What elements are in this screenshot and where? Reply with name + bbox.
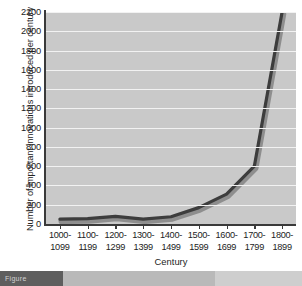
- x-axis-tick-mark: [227, 224, 228, 229]
- x-axis-title: Century: [46, 256, 296, 267]
- line-series: [46, 12, 296, 224]
- gridline: [46, 128, 296, 129]
- gridline: [46, 166, 296, 167]
- x-axis-tick-labels: 1000-10991100-11991200-12991300-13991400…: [46, 230, 296, 258]
- x-axis-tick-label: 1800-1899: [262, 230, 302, 253]
- x-axis-tick-mark: [88, 224, 89, 229]
- y-axis-tick-labels: 0200400600800100012001400160018002000220…: [0, 0, 44, 240]
- y-axis-tick-label: 600: [26, 161, 41, 171]
- caption-label: Figure: [5, 275, 27, 282]
- plot-area: [46, 12, 296, 224]
- y-axis-tick-label: 1600: [21, 65, 41, 75]
- x-axis-tick-mark: [60, 224, 61, 229]
- x-axis-tick-mark: [199, 224, 200, 229]
- y-axis-tick-label: 200: [26, 200, 41, 210]
- line-series-shadow: [61, 14, 283, 221]
- y-axis-tick-label: 400: [26, 180, 41, 190]
- chart-figure: Number of important innovations introduc…: [0, 0, 302, 286]
- gridline: [46, 89, 296, 90]
- gridline: [46, 147, 296, 148]
- y-axis-tick-label: 800: [26, 142, 41, 152]
- x-axis-tick-mark: [282, 224, 283, 229]
- gridline: [46, 12, 296, 13]
- y-axis-tick-label: 2000: [21, 26, 41, 36]
- y-axis-tick-label: 1000: [21, 123, 41, 133]
- y-axis-tick-label: 1400: [21, 84, 41, 94]
- gridline: [46, 31, 296, 32]
- gridline: [46, 185, 296, 186]
- x-axis-tick-mark: [115, 224, 116, 229]
- caption-dark-band: Figure: [0, 271, 63, 286]
- gridline: [46, 70, 296, 71]
- y-axis-tick-label: 1800: [21, 46, 41, 56]
- gridline: [46, 51, 296, 52]
- y-axis-tick-label: 0: [36, 219, 41, 229]
- caption-strip: Figure: [0, 271, 302, 286]
- line-series-path: [60, 12, 282, 219]
- x-axis-tick-mark: [171, 224, 172, 229]
- caption-right-band: [215, 271, 302, 286]
- gridline: [46, 108, 296, 109]
- caption-mid-band: [63, 271, 215, 286]
- y-axis-tick-label: 1200: [21, 103, 41, 113]
- x-axis-tick-mark: [254, 224, 255, 229]
- x-axis-tick-mark: [143, 224, 144, 229]
- y-axis-tick-label: 2200: [21, 7, 41, 17]
- gridline: [46, 205, 296, 206]
